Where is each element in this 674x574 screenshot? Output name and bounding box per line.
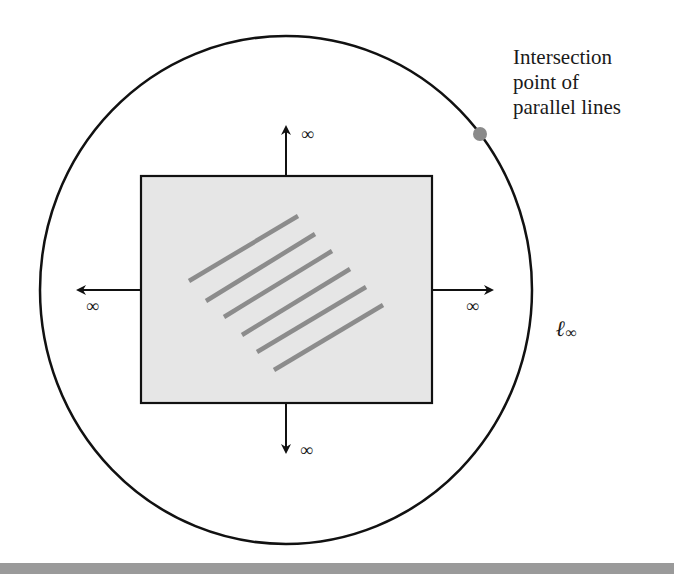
intersection-callout: Intersection point of parallel lines — [513, 45, 621, 120]
infinity-subscript: ∞ — [565, 324, 576, 341]
line-at-infinity-label: ℓ∞ — [556, 316, 577, 342]
infinity-label-left: ∞ — [86, 296, 99, 317]
bottom-band — [0, 563, 674, 574]
infinity-label-down: ∞ — [300, 440, 313, 461]
callout-line-3: parallel lines — [513, 95, 621, 120]
infinity-label-right: ∞ — [466, 296, 479, 317]
callout-line-2: point of — [513, 70, 621, 95]
intersection-point-dot — [473, 127, 487, 141]
infinity-label-up: ∞ — [301, 124, 314, 145]
plane-rectangle — [141, 176, 432, 403]
callout-line-1: Intersection — [513, 45, 621, 70]
ell-symbol: ℓ — [556, 316, 565, 341]
